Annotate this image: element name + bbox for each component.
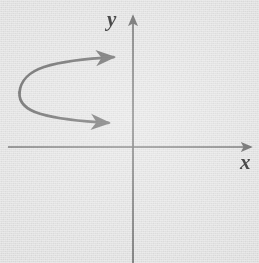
y-axis-label: y [107, 9, 116, 30]
curve-lower-branch [19, 93, 108, 123]
curve-upper-branch [20, 57, 114, 92]
coordinate-plane-graphic [0, 0, 259, 263]
x-axis-label: x [240, 152, 251, 173]
figure-canvas: y x [0, 0, 259, 263]
